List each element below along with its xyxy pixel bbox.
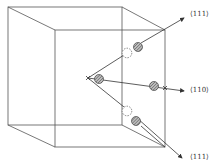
label-middle-110: ⟨110⟩ <box>190 86 209 94</box>
direction-vectors <box>88 18 184 158</box>
atom-lower <box>132 117 141 126</box>
cube-diagram <box>0 0 218 168</box>
label-upper-111: ⟨111⟩ <box>190 10 209 18</box>
vacancy-upper <box>122 48 132 58</box>
vacancy-lower <box>122 106 132 116</box>
cube-back-face <box>8 7 122 125</box>
atom-center <box>95 75 104 84</box>
atom-upper <box>134 43 143 52</box>
vector-upper-111 <box>88 55 124 78</box>
atom-middle <box>150 82 159 91</box>
vacancies <box>122 48 132 116</box>
cube-front-face <box>55 30 165 147</box>
label-lower-111: ⟨111⟩ <box>190 153 209 161</box>
